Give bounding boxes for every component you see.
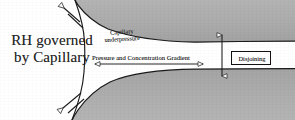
- caption-rh-governed-by-capillary: RH governed by Capillary: [6, 32, 98, 66]
- caption-line-2: by Capillary: [6, 49, 98, 66]
- disjoining-label-box: Disjoining: [231, 51, 271, 65]
- label-disjoining: Disjoining: [232, 55, 272, 62]
- caption-line-1: RH governed: [6, 32, 98, 49]
- label-pressure-and-concentration-gradient: Pressure and Concentration Gradient: [92, 54, 190, 61]
- capillary-pore-diagram: RH governed by Capillary Capillary under…: [0, 0, 295, 120]
